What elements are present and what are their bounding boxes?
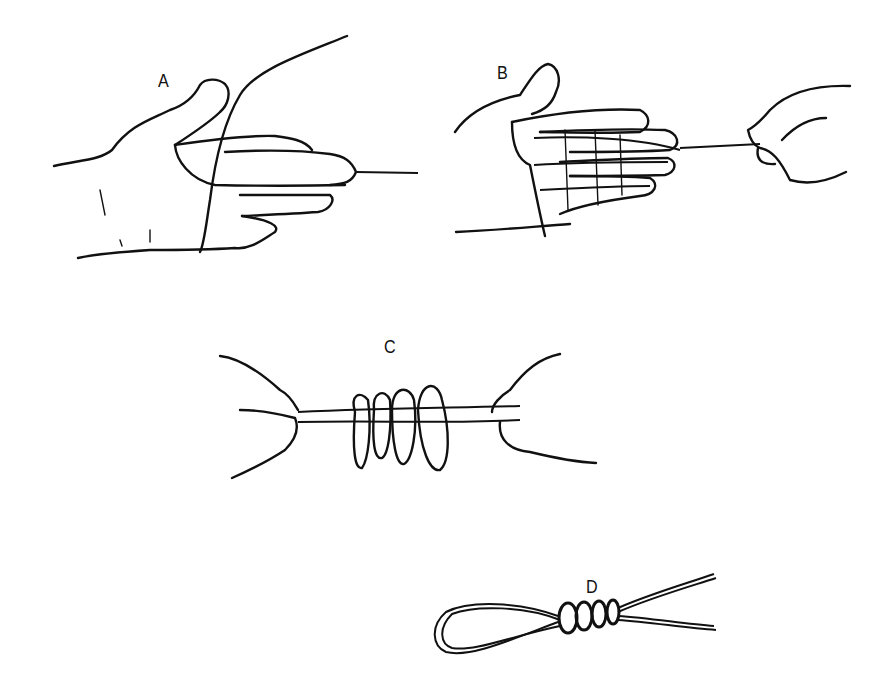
hand-b-illustration — [455, 64, 850, 236]
loops-c-illustration — [220, 354, 596, 478]
hand-a-illustration — [54, 36, 418, 258]
illustration-canvas — [0, 0, 896, 699]
knot-d-illustration — [435, 574, 716, 653]
